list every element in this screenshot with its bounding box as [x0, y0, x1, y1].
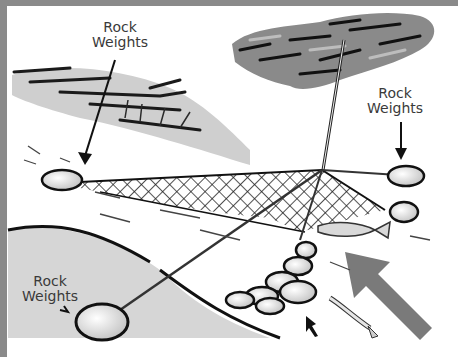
- fish-near-net: [318, 222, 390, 238]
- rock-dam: [226, 242, 316, 314]
- guy-line-right: [322, 170, 398, 175]
- label-rock-weights-top-right: Rock Weights: [367, 86, 423, 116]
- label-line-2: Weights: [22, 289, 78, 304]
- label-line-1: Rock: [22, 274, 78, 289]
- tree-foliage: [232, 13, 434, 89]
- rock-weight-right: [388, 166, 424, 186]
- far-bank: [12, 68, 250, 165]
- rock-weight-left: [42, 170, 82, 190]
- label-rock-weights-bottom-left: Rock Weights: [22, 274, 78, 304]
- rock-weight-right-lower: [390, 202, 418, 222]
- label-rock-weights-top-left: Rock Weights: [92, 20, 148, 50]
- fish-swimming: [330, 298, 378, 338]
- label-line-2: Weights: [367, 101, 423, 116]
- illustration-frame: Rock Weights Rock Weights Rock Weights: [0, 0, 458, 357]
- label-line-1: Rock: [367, 86, 423, 101]
- label-line-1: Rock: [92, 20, 148, 35]
- water-flow-arrow: [345, 252, 432, 340]
- label-line-2: Weights: [92, 35, 148, 50]
- small-pointer-arrow: [306, 316, 318, 337]
- rock-weight-bottom-left: [76, 304, 128, 340]
